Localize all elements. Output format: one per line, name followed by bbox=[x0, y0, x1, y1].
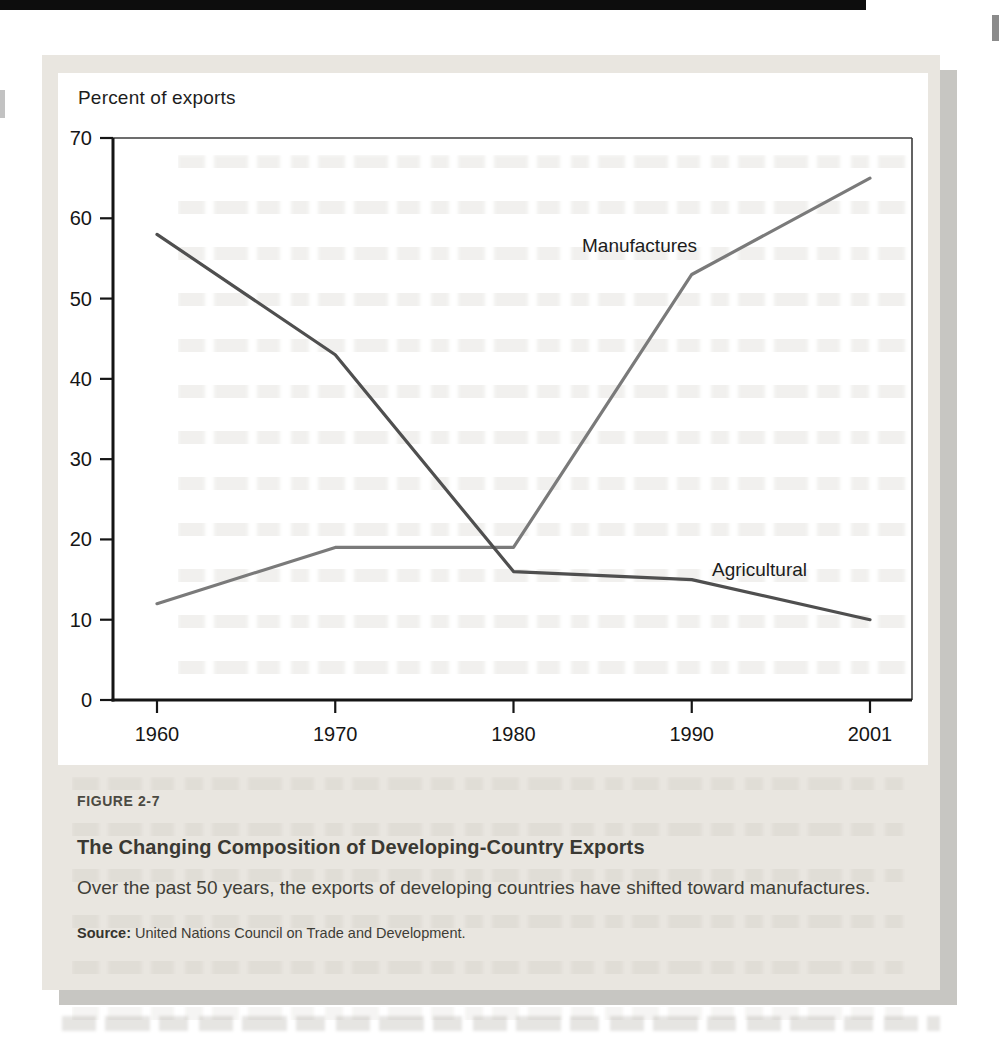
svg-text:1960: 1960 bbox=[135, 723, 180, 745]
svg-text:30: 30 bbox=[70, 448, 92, 470]
figure-title: The Changing Composition of Developing-C… bbox=[77, 835, 892, 859]
figure-source: Source: United Nations Council on Trade … bbox=[77, 924, 892, 942]
series-label-manufactures: Manufactures bbox=[582, 235, 697, 257]
svg-text:1970: 1970 bbox=[313, 723, 358, 745]
figure-caption: FIGURE 2-7 The Changing Composition of D… bbox=[77, 793, 892, 942]
svg-text:1990: 1990 bbox=[670, 723, 715, 745]
scan-artifact-right bbox=[992, 15, 999, 41]
figure-number-label: FIGURE 2-7 bbox=[77, 793, 892, 809]
line-chart: 01020304050607019601970198019902001 bbox=[58, 73, 928, 765]
figure-description: Over the past 50 years, the exports of d… bbox=[77, 873, 877, 902]
source-label: Source: bbox=[77, 925, 131, 941]
figure-card: 01020304050607019601970198019902001 Perc… bbox=[42, 55, 940, 990]
svg-text:1980: 1980 bbox=[491, 723, 536, 745]
svg-text:40: 40 bbox=[70, 368, 92, 390]
scan-artifact-left bbox=[0, 90, 5, 118]
chart-panel: 01020304050607019601970198019902001 Perc… bbox=[58, 73, 928, 765]
svg-text:0: 0 bbox=[81, 689, 92, 711]
print-bleedthrough-bottom bbox=[62, 1016, 940, 1031]
y-axis-title: Percent of exports bbox=[78, 87, 236, 109]
svg-text:60: 60 bbox=[70, 207, 92, 229]
series-label-agricultural: Agricultural bbox=[712, 559, 807, 581]
scanned-page: { "page": { "background_color": "#ffffff… bbox=[0, 0, 999, 1052]
source-text: United Nations Council on Trade and Deve… bbox=[135, 925, 465, 941]
svg-text:10: 10 bbox=[70, 609, 92, 631]
scan-edge-bar bbox=[0, 0, 866, 10]
svg-text:2001: 2001 bbox=[848, 723, 893, 745]
svg-text:70: 70 bbox=[70, 127, 92, 149]
svg-text:50: 50 bbox=[70, 288, 92, 310]
svg-text:20: 20 bbox=[70, 528, 92, 550]
